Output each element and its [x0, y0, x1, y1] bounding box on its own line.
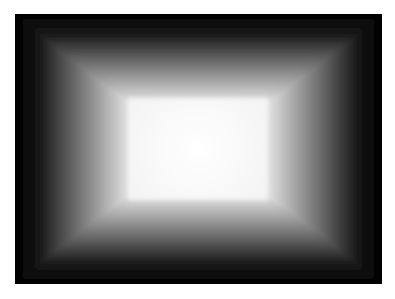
center-highlight — [128, 98, 268, 200]
bevel-gradient-graphic — [15, 14, 382, 284]
gradient-frame — [15, 14, 382, 284]
